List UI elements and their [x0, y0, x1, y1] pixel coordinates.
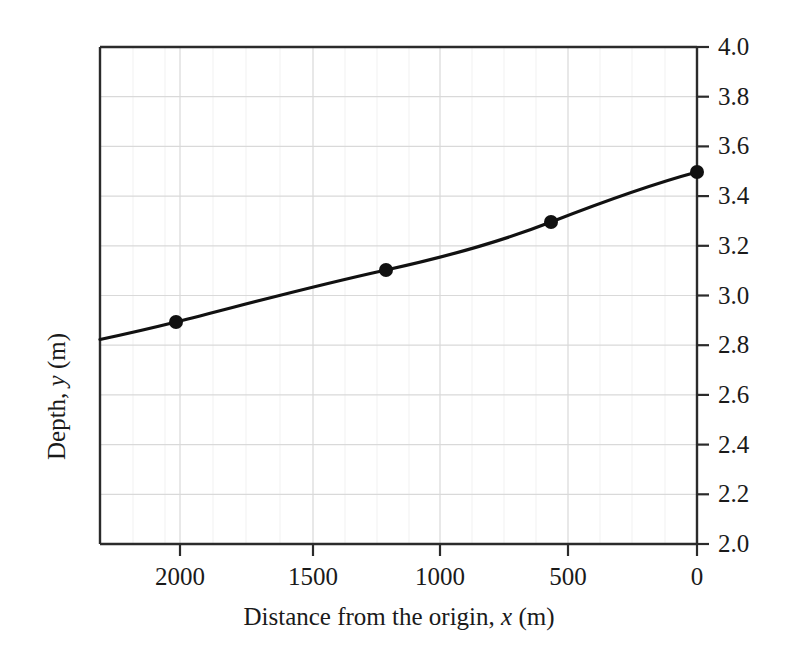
y-tick-label-3-4: 3.4: [718, 183, 749, 208]
x-axis-title-symbol: x: [501, 603, 512, 630]
y-axis-title: Depth, y (m): [44, 260, 69, 460]
y-axis-ticks: [697, 47, 709, 544]
data-series-line: [100, 172, 697, 340]
y-tick-label-3-2: 3.2: [718, 233, 749, 258]
y-tick-label-2-8: 2.8: [718, 332, 749, 357]
y-tick-label-3-6: 3.6: [718, 133, 749, 158]
y-tick-label-2-6: 2.6: [718, 382, 749, 407]
y-tick-label-2-2: 2.2: [718, 481, 749, 506]
y-axis-title-post: (m): [43, 333, 70, 375]
y-tick-label-4-0: 4.0: [718, 34, 749, 59]
data-point-marker: [169, 315, 183, 329]
x-tick-label-1000: 1000: [380, 564, 500, 589]
x-tick-label-1500: 1500: [253, 564, 373, 589]
x-axis-title: Distance from the origin, x (m): [0, 604, 798, 629]
x-tick-label-2000: 2000: [120, 564, 240, 589]
y-axis-title-pre: Depth,: [43, 386, 70, 460]
x-axis-title-post: (m): [512, 603, 554, 630]
y-tick-label-3-0: 3.0: [718, 283, 749, 308]
x-axis-title-pre: Distance from the origin,: [243, 603, 501, 630]
y-axis-title-symbol: y: [43, 375, 70, 386]
x-axis-ticks: [180, 544, 697, 556]
data-point-marker: [690, 165, 704, 179]
y-tick-label-3-8: 3.8: [718, 84, 749, 109]
x-tick-label-0: 0: [637, 564, 757, 589]
data-point-marker: [379, 263, 393, 277]
data-point-marker: [544, 215, 558, 229]
x-tick-label-500: 500: [508, 564, 628, 589]
grid-major-horizontal: [100, 97, 697, 495]
y-tick-label-2-0: 2.0: [718, 531, 749, 556]
chart-figure: 4.0 3.8 3.6 3.4 3.2 3.0 2.8 2.6 2.4 2.2 …: [0, 0, 798, 669]
y-tick-label-2-4: 2.4: [718, 432, 749, 457]
